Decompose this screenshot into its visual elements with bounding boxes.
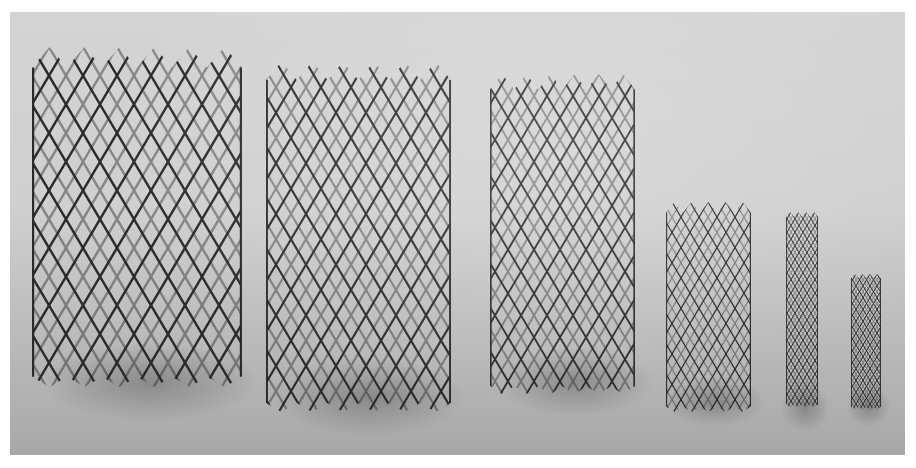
stent-4 bbox=[666, 202, 751, 412]
stent-2 bbox=[266, 62, 451, 412]
stent-3 bbox=[490, 74, 635, 394]
stent-5 bbox=[786, 212, 818, 407]
stent-photograph bbox=[10, 12, 905, 455]
stent-6 bbox=[851, 274, 881, 409]
stent-1 bbox=[32, 47, 242, 387]
